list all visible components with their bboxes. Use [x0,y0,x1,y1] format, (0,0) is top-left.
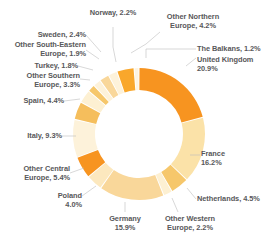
donut-slice [101,170,163,200]
donut-slice [135,68,139,90]
slice-label-france: France 16.2% [201,149,271,167]
slice-label-the-balkans: The Balkans, 1.2% [197,44,277,53]
slice-label-other-northern-europe: Other Northern Europe, 4.2% [150,12,236,30]
slice-label-germany: Germany 15.9% [90,214,160,232]
donut-slice [139,68,202,123]
donut-slice-group [73,68,205,200]
donut-slice [73,120,98,157]
slice-label-other-southern-europe: Other Southern Europe, 3.3% [0,71,80,89]
donut-chart: Norway, 2.2% Other Northern Europe, 4.2%… [0,0,278,249]
slice-label-netherlands: Netherlands, 4.5% [197,194,277,203]
slice-label-turkey: Turkey, 1.8% [2,61,78,70]
slice-label-sweden: Sweden, 2.4% [2,30,86,39]
slice-label-spain: Spain, 4.4% [0,96,64,105]
slice-label-norway: Norway, 2.2% [66,8,160,17]
donut-slice [171,118,205,179]
slice-label-united-kingdom: United Kingdom 20.9% [197,55,277,73]
slice-label-other-western-europe: Other Western Europe, 2.2% [152,214,228,232]
slice-label-italy: Italy, 9.3% [0,131,62,140]
slice-label-other-south-eastern-europe: Other South-Eastern Europe, 1.9% [0,40,86,58]
slice-label-poland: Poland 4.0% [14,191,82,209]
slice-label-other-central-europe: Other Central Europe, 5.4% [0,164,70,182]
